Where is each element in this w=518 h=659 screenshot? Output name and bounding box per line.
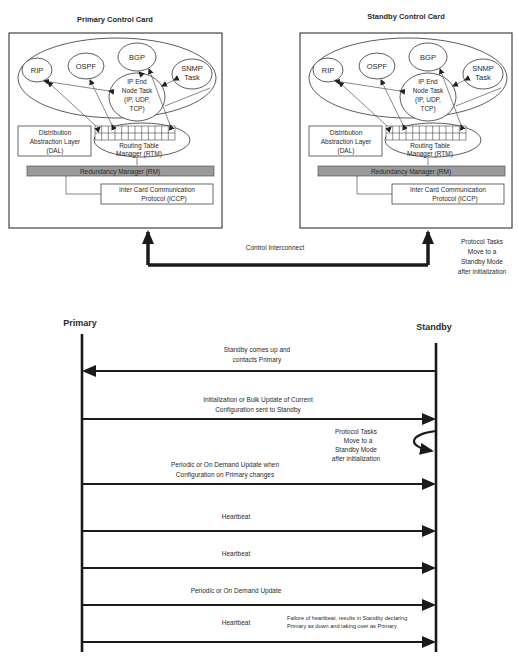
failure-note-line-1: Failure of heartbeat, results in Standby… bbox=[287, 615, 407, 621]
ip-label-4: TCP) bbox=[129, 105, 144, 113]
rm-label: Redundancy Manager (RM) bbox=[80, 168, 160, 176]
msg-text: Initialization or Bulk Update of Current bbox=[203, 396, 313, 404]
primary-control-card: Primary Control Card RIP OSPF BGP SNMP T… bbox=[9, 15, 222, 228]
note-line-3: Standby Mode bbox=[461, 258, 503, 266]
message-heartbeat-2: Heartbeat bbox=[83, 550, 434, 568]
message-standby-contacts-primary: Standby comes up and contacts Primary bbox=[84, 346, 435, 371]
rtm-label-2: Manager (RTM) bbox=[116, 150, 162, 158]
primary-lifeline-label: Primary bbox=[63, 318, 97, 328]
msg-text: Heartbeat bbox=[222, 619, 251, 626]
note-line-4: after initialization bbox=[458, 268, 507, 275]
message-periodic-update: Periodic or On Demand Update bbox=[83, 587, 434, 605]
ip-label-2: Node Task bbox=[413, 87, 444, 94]
standby-lifeline-label: Standby bbox=[416, 322, 452, 332]
rm-label: Redundancy Manager (RM) bbox=[371, 168, 451, 176]
rtm-label-1: Routing Table bbox=[410, 142, 450, 150]
iccp-label-1: Inter Card Communication bbox=[410, 186, 486, 193]
dal-label-2: Abstraction Layer bbox=[30, 138, 81, 146]
ip-label-1: IP End bbox=[418, 78, 438, 85]
ip-label-2: Node Task bbox=[122, 87, 153, 94]
dal-label-2: Abstraction Layer bbox=[321, 138, 372, 146]
snmp-label-1: SNMP bbox=[472, 64, 494, 73]
interconnect-label: Control Interconnect bbox=[246, 244, 305, 251]
standby-card-title: Standby Control Card bbox=[367, 12, 445, 21]
snmp-label-1: SNMP bbox=[181, 64, 203, 73]
note-line-1: Protocol Tasks bbox=[461, 238, 504, 245]
rtm-label-1: Routing Table bbox=[119, 142, 159, 150]
iccp-label-2: Protocol (ICCP) bbox=[141, 195, 187, 203]
rip-label: RIP bbox=[322, 66, 335, 75]
dal-label-3: (DAL) bbox=[338, 147, 355, 155]
ip-label-1: IP End bbox=[127, 78, 147, 85]
rip-label: RIP bbox=[31, 66, 44, 75]
ospf-label: OSPF bbox=[367, 62, 388, 71]
iccp-label-1: Inter Card Communication bbox=[119, 186, 195, 193]
dal-label-1: Distribution bbox=[39, 129, 72, 136]
msg-text: Heartbeat bbox=[222, 513, 251, 520]
routing-table-grid bbox=[386, 126, 466, 140]
rtm-label-2: Manager (RTM) bbox=[407, 150, 453, 158]
redundancy-diagram: Primary Control Card RIP OSPF BGP SNMP T… bbox=[0, 0, 518, 659]
ip-label-3: (IP, UDP, bbox=[124, 96, 150, 104]
ospf-label: OSPF bbox=[76, 62, 97, 71]
msg-text: Standby Mode bbox=[335, 446, 377, 454]
msg-text: Protocol Tasks bbox=[335, 428, 378, 435]
snmp-label-2: Task bbox=[475, 73, 491, 82]
standby-mode-note: Protocol Tasks Move to a Standby Mode af… bbox=[458, 238, 507, 275]
dal-label-3: (DAL) bbox=[47, 147, 64, 155]
msg-text: Heartbeat bbox=[222, 550, 251, 557]
failure-note-line-2: Primary as down and taking over as Prima… bbox=[287, 623, 397, 629]
standby-control-card: Standby Control Card RIP OSPF BGP SNMP T… bbox=[300, 12, 512, 228]
msg-text: Standby comes up and bbox=[224, 346, 291, 354]
bgp-label: BGP bbox=[420, 53, 436, 62]
msg-text: Configuration sent to Standby bbox=[215, 406, 301, 414]
bgp-label: BGP bbox=[129, 53, 145, 62]
control-interconnect: Control Interconnect bbox=[148, 232, 428, 265]
routing-table-grid bbox=[95, 126, 175, 140]
message-standby-mode-self: Protocol Tasks Move to a Standby Mode af… bbox=[332, 428, 436, 462]
msg-text: after initialization bbox=[332, 455, 381, 462]
msg-text: Move to a bbox=[344, 437, 373, 444]
msg-text: contacts Primary bbox=[233, 356, 282, 364]
message-initialization-bulk-update: Initialization or Bulk Update of Current… bbox=[83, 396, 434, 419]
message-heartbeat-1: Heartbeat bbox=[83, 513, 434, 531]
message-periodic-update-when-changes: Periodic or On Demand Update when Config… bbox=[83, 461, 434, 484]
iccp-label-2: Protocol (ICCP) bbox=[432, 195, 478, 203]
dal-label-1: Distribution bbox=[330, 129, 363, 136]
msg-text: Configuration on Primary changes bbox=[176, 471, 275, 479]
msg-text: Periodic or On Demand Update when bbox=[171, 461, 279, 469]
primary-card-title: Primary Control Card bbox=[77, 15, 153, 24]
sequence-diagram: Primary Standby Standby comes up and con… bbox=[63, 318, 452, 652]
ip-label-4: TCP) bbox=[420, 105, 435, 113]
ip-label-3: (IP, UDP, bbox=[415, 96, 441, 104]
snmp-label-2: Task bbox=[184, 73, 200, 82]
msg-text: Periodic or On Demand Update bbox=[191, 587, 282, 595]
note-line-2: Move to a bbox=[468, 248, 497, 255]
failure-note: Failure of heartbeat, results in Standby… bbox=[287, 615, 407, 629]
